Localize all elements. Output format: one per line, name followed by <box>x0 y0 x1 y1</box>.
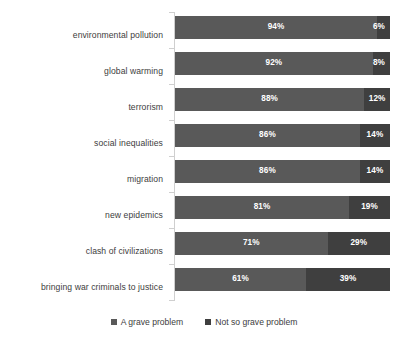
bar-value-label: 94% <box>268 23 285 31</box>
bar-row: 71% 29% <box>175 232 390 255</box>
axis-tick <box>169 120 174 121</box>
stacked-bar-chart: environmental pollution 94% 6% global wa… <box>0 0 408 349</box>
bar-value-label: 71% <box>243 239 260 247</box>
category-label: terrorism <box>3 103 163 112</box>
bar-value-label: 14% <box>367 131 384 139</box>
bar-segment-not-so-grave: 14% <box>360 124 390 147</box>
bar-segment-grave: 61% <box>175 268 306 291</box>
axis-tick <box>169 12 174 13</box>
bar-row: 61% 39% <box>175 268 390 291</box>
bar-segment-grave: 94% <box>175 16 377 39</box>
axis-tick <box>169 192 174 193</box>
axis-tick <box>169 156 174 157</box>
category-label: migration <box>3 175 163 184</box>
bar-row: 88% 12% <box>175 88 390 111</box>
bar-segment-grave: 86% <box>175 160 360 183</box>
bar-value-label: 29% <box>350 239 367 247</box>
bar-segment-not-so-grave: 19% <box>349 196 390 219</box>
bar-value-label: 81% <box>254 203 271 211</box>
bar-value-label: 88% <box>261 95 278 103</box>
bar-value-label: 39% <box>340 275 357 283</box>
bar-value-label: 8% <box>373 59 385 67</box>
bar-value-label: 19% <box>361 203 378 211</box>
bar-row: 81% 19% <box>175 196 390 219</box>
axis-tick <box>169 48 174 49</box>
bar-row: 86% 14% <box>175 160 390 183</box>
bar-segment-not-so-grave: 39% <box>306 268 390 291</box>
bar-value-label: 86% <box>259 167 276 175</box>
bar-segment-not-so-grave: 29% <box>328 232 390 255</box>
bar-segment-not-so-grave: 12% <box>364 88 390 111</box>
category-label: clash of civilizations <box>3 247 163 256</box>
bar-segment-not-so-grave: 8% <box>373 52 390 75</box>
category-label: environmental pollution <box>3 31 163 40</box>
bar-value-label: 92% <box>266 59 283 67</box>
bar-segment-grave: 71% <box>175 232 328 255</box>
bar-value-label: 61% <box>232 275 249 283</box>
bar-value-label: 6% <box>373 23 385 31</box>
legend-item-not-so-grave[interactable]: Not so grave problem <box>205 318 297 327</box>
bar-segment-grave: 92% <box>175 52 373 75</box>
axis-tick <box>169 228 174 229</box>
axis-tick <box>169 84 174 85</box>
bar-row: 92% 8% <box>175 52 390 75</box>
bar-segment-grave: 81% <box>175 196 349 219</box>
plot-area: environmental pollution 94% 6% global wa… <box>0 0 408 310</box>
legend-swatch-icon <box>205 319 211 325</box>
axis-tick <box>169 300 174 301</box>
chart-legend: A grave problem Not so grave problem <box>0 318 408 327</box>
bar-segment-not-so-grave: 6% <box>377 16 390 39</box>
bar-segment-not-so-grave: 14% <box>360 160 390 183</box>
bar-segment-grave: 88% <box>175 88 364 111</box>
legend-swatch-icon <box>111 319 117 325</box>
category-label: bringing war criminals to justice <box>3 283 163 292</box>
legend-item-grave[interactable]: A grave problem <box>111 318 184 327</box>
bar-row: 86% 14% <box>175 124 390 147</box>
legend-item-label: Not so grave problem <box>215 318 297 327</box>
bar-row: 94% 6% <box>175 16 390 39</box>
bar-value-label: 12% <box>369 95 386 103</box>
bar-value-label: 14% <box>367 167 384 175</box>
bar-value-label: 86% <box>259 131 276 139</box>
legend-item-label: A grave problem <box>121 318 184 327</box>
axis-tick <box>169 264 174 265</box>
category-label: new epidemics <box>3 211 163 220</box>
category-label: social inequalities <box>3 139 163 148</box>
category-label: global warming <box>3 67 163 76</box>
bar-segment-grave: 86% <box>175 124 360 147</box>
